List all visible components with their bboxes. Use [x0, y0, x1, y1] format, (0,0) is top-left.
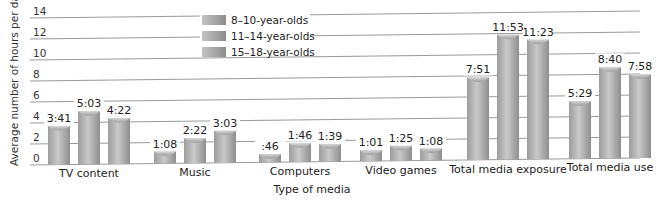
bar: 3:03: [210, 117, 240, 163]
bar: 1:08: [150, 138, 180, 164]
bar-value-label: 8:40: [598, 53, 623, 66]
bar: 7:51: [463, 63, 493, 159]
category-label: Music: [179, 166, 210, 179]
bar-value-label: 5:03: [77, 97, 102, 110]
bar-value-label: 3:03: [213, 117, 238, 130]
legend-swatch: [202, 31, 226, 41]
category-label: TV content: [58, 167, 120, 180]
bar-value-label: 3:41: [47, 112, 72, 125]
gridline: [30, 11, 640, 18]
bar: 4:22: [104, 104, 134, 164]
bar-value-label: 7:51: [466, 63, 491, 76]
bar: 11:23: [522, 26, 554, 159]
bar: 1:46: [285, 129, 315, 162]
bar-value-label: 2:22: [183, 124, 208, 137]
y-tick-label: 6: [33, 89, 40, 101]
bar-value-label: 4:22: [107, 104, 132, 117]
legend-label: 15–18-year-olds: [231, 46, 315, 58]
bar-value-label: 5:29: [568, 87, 593, 100]
y-tick-label: 14: [33, 5, 47, 17]
y-tick-label: 2: [33, 131, 40, 143]
bar-value-label: 1:25: [389, 132, 414, 145]
bar: 2:22: [180, 124, 210, 163]
y-axis-ticks: 02468101214: [33, 5, 47, 164]
y-tick-label: 12: [33, 26, 46, 38]
y-tick-label: 0: [33, 152, 40, 164]
legend-label: 8–10-year-olds: [231, 14, 308, 26]
bar: 5:29: [565, 87, 595, 159]
bar: 1:39: [315, 130, 345, 161]
category-labels: TV contentMusicComputersVideo gamesTotal…: [58, 161, 653, 180]
bar-value-label: 1:08: [153, 138, 178, 151]
bar-value-label: 1:01: [359, 136, 384, 149]
bar-value-label: 1:08: [419, 135, 444, 148]
x-axis-title: Type of media: [272, 183, 350, 196]
bar: 3:41: [44, 112, 74, 165]
y-tick-label: 10: [33, 47, 46, 59]
bar: 1:25: [386, 132, 416, 161]
y-axis-label: Average number of hours per day: [8, 0, 20, 166]
category-label: Computers: [270, 165, 331, 178]
bar: 1:08: [416, 135, 446, 161]
legend: 8–10-year-olds11–14-year-olds15–18-year-…: [200, 10, 315, 58]
bar-value-label: 1:39: [318, 130, 343, 143]
y-tick-label: 8: [33, 68, 40, 80]
y-tick-label: 4: [33, 110, 40, 122]
bar: :46: [255, 140, 285, 162]
bar-value-label: :46: [261, 140, 279, 153]
bar-value-label: 1:46: [288, 129, 313, 142]
category-label: Video games: [365, 164, 437, 177]
bar: 7:58: [625, 60, 655, 158]
bar-chart: 02468101214 Average number of hours per …: [0, 0, 665, 205]
bar: 1:01: [356, 136, 386, 161]
legend-swatch: [202, 15, 226, 25]
bar-value-label: 11:53: [492, 21, 524, 34]
bar-value-label: 7:58: [628, 60, 653, 73]
legend-swatch: [202, 47, 226, 57]
bar: 8:40: [595, 53, 625, 158]
bar-value-label: 11:23: [522, 26, 554, 39]
legend-label: 11–14-year-olds: [231, 30, 315, 42]
bar: 5:03: [74, 97, 104, 164]
category-label: Total media exposure: [448, 163, 567, 176]
category-label: Total media use: [566, 161, 654, 174]
